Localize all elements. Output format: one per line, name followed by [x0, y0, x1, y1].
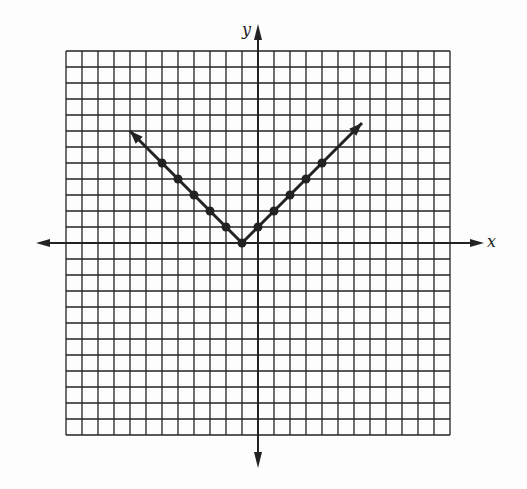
- x-axis-label: x: [487, 232, 496, 251]
- data-point: [302, 175, 311, 184]
- x-axis-left-arrow-icon: [36, 239, 50, 247]
- data-point: [158, 159, 167, 168]
- data-point: [174, 175, 183, 184]
- data-point: [254, 223, 263, 232]
- data-point: [238, 239, 247, 248]
- data-point: [222, 223, 231, 232]
- data-point: [286, 191, 295, 200]
- data-point: [318, 159, 327, 168]
- y-axis-down-arrow-icon: [254, 452, 262, 468]
- data-point: [270, 207, 279, 216]
- y-axis-up-arrow-icon: [254, 24, 262, 40]
- graph-svg: [0, 0, 527, 489]
- x-axis-right-arrow-icon: [470, 239, 484, 247]
- y-axis-label: y: [242, 20, 251, 39]
- data-point: [190, 191, 199, 200]
- v-graph-line: [130, 123, 362, 243]
- data-point: [206, 207, 215, 216]
